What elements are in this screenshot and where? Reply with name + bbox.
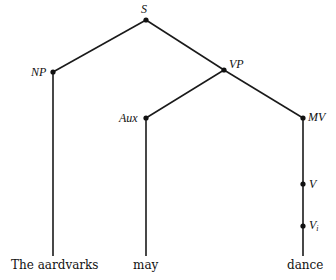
edge-s-np <box>53 20 146 72</box>
node-label-vi-subscript: i <box>316 224 318 233</box>
node-dot-vp <box>221 67 226 72</box>
node-dot-aux <box>143 115 148 120</box>
syntax-tree-diagram <box>0 0 336 280</box>
node-label-vi: Vi <box>309 219 319 231</box>
node-dot-v <box>300 181 305 186</box>
node-label-aux: Aux <box>119 112 138 124</box>
node-dot-s <box>143 17 148 22</box>
node-label-np: NP <box>31 66 46 78</box>
node-label-mv: MV <box>308 111 325 123</box>
node-label-s: S <box>141 3 147 15</box>
node-dot-np <box>50 69 55 74</box>
leaf-dance: dance <box>287 259 323 271</box>
edge-vp-aux <box>146 70 224 118</box>
node-label-v: V <box>309 178 316 190</box>
node-label-vp: VP <box>229 58 244 70</box>
leaf-the-aardvarks: The aardvarks <box>11 259 98 271</box>
node-dot-vi <box>300 223 305 228</box>
node-dot-mv <box>300 115 305 120</box>
edge-s-vp <box>146 20 224 70</box>
leaf-may: may <box>133 259 158 271</box>
edge-vp-mv <box>224 70 303 118</box>
